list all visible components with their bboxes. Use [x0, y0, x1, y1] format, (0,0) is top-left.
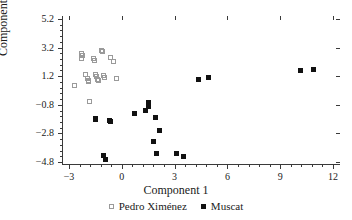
- x-axis-title: Component 1: [0, 183, 352, 198]
- y-tick-minor: [60, 42, 62, 43]
- data-point: [181, 154, 186, 159]
- data-point: [86, 79, 91, 84]
- y-tick-label: 1.2: [0, 71, 54, 81]
- y-tick-minor: [60, 36, 62, 37]
- y-tick-minor: [60, 145, 62, 146]
- y-tick-minor: [60, 82, 62, 83]
- x-tick-minor: [80, 165, 81, 167]
- scatter-plot-figure: 5.23.21.2−0.8−2.8−4.8 −3036912 Component…: [0, 0, 352, 220]
- data-point: [100, 49, 105, 54]
- x-tick-minor: [291, 165, 292, 167]
- y-tick-major-right: [336, 19, 340, 20]
- y-tick-minor: [60, 59, 62, 60]
- data-point: [154, 151, 159, 156]
- data-point: [114, 76, 119, 81]
- x-tick-minor: [101, 165, 102, 167]
- x-tick-minor: [143, 165, 144, 167]
- legend-open-square-icon: [109, 204, 114, 209]
- x-tick-minor: [111, 165, 112, 167]
- y-axis-line: [62, 16, 63, 165]
- y-tick-major-right: [336, 76, 340, 77]
- x-tick-major: [69, 165, 70, 169]
- x-tick-label: 0: [119, 172, 124, 182]
- x-tick-minor: [259, 165, 260, 167]
- x-tick-minor: [185, 165, 186, 167]
- data-point: [92, 58, 97, 63]
- x-tick-minor: [132, 165, 133, 167]
- x-tick-minor: [312, 165, 313, 167]
- x-tick-minor: [206, 165, 207, 167]
- x-axis-line: [62, 164, 340, 165]
- x-tick-major-top: [69, 16, 70, 20]
- data-point: [93, 117, 98, 122]
- y-tick-major: [58, 48, 62, 49]
- data-point: [151, 139, 156, 144]
- x-tick-major-top: [227, 16, 228, 20]
- x-tick-minor: [196, 165, 197, 167]
- data-point: [206, 75, 211, 80]
- y-tick-major-right: [336, 48, 340, 49]
- data-point: [143, 108, 148, 113]
- data-point: [196, 77, 201, 82]
- y-tick-minor: [60, 156, 62, 157]
- data-point: [132, 111, 137, 116]
- y-tick-minor: [60, 111, 62, 112]
- x-tick-minor: [322, 165, 323, 167]
- data-point: [108, 119, 113, 124]
- y-tick-minor: [60, 139, 62, 140]
- y-axis-title: Component 2: [0, 0, 11, 56]
- legend-item: Muscat: [201, 200, 243, 212]
- y-tick-major: [58, 105, 62, 106]
- x-tick-major: [122, 165, 123, 169]
- data-point: [80, 53, 85, 58]
- data-point: [311, 67, 316, 72]
- y-tick-major: [58, 162, 62, 163]
- x-tick-major: [175, 165, 176, 169]
- x-tick-label: 12: [328, 172, 338, 182]
- data-point: [111, 59, 116, 64]
- y-tick-minor: [60, 30, 62, 31]
- data-point: [72, 83, 77, 88]
- y-tick-major-right: [336, 162, 340, 163]
- plot-area: [62, 16, 340, 165]
- data-point: [153, 115, 158, 120]
- data-point: [87, 99, 92, 104]
- data-point: [174, 151, 179, 156]
- x-tick-label: 3: [172, 172, 177, 182]
- legend-item: Pedro Ximénez: [109, 200, 187, 212]
- x-tick-minor: [238, 165, 239, 167]
- y-tick-minor: [60, 70, 62, 71]
- x-tick-label: 9: [278, 172, 283, 182]
- x-tick-minor: [164, 165, 165, 167]
- y-tick-major-right: [336, 133, 340, 134]
- y-tick-minor: [60, 122, 62, 123]
- x-tick-major-top: [175, 16, 176, 20]
- legend-label: Muscat: [211, 200, 243, 212]
- x-tick-major-top: [122, 16, 123, 20]
- data-point: [298, 68, 303, 73]
- x-tick-major: [280, 165, 281, 169]
- y-tick-major-right: [336, 105, 340, 106]
- x-tick-minor: [217, 165, 218, 167]
- data-point: [102, 75, 107, 80]
- y-tick-minor: [60, 65, 62, 66]
- legend-filled-square-icon: [201, 204, 206, 209]
- y-tick-minor: [60, 128, 62, 129]
- y-tick-minor: [60, 151, 62, 152]
- y-tick-major: [58, 133, 62, 134]
- y-tick-minor: [60, 99, 62, 100]
- x-tick-major-top: [280, 16, 281, 20]
- x-tick-minor: [153, 165, 154, 167]
- x-tick-major-top: [333, 16, 334, 20]
- data-point: [146, 100, 151, 105]
- x-tick-minor: [270, 165, 271, 167]
- x-tick-major: [227, 165, 228, 169]
- x-tick-minor: [90, 165, 91, 167]
- y-tick-minor: [60, 25, 62, 26]
- y-tick-minor: [60, 116, 62, 117]
- y-tick-minor: [60, 53, 62, 54]
- x-tick-minor: [301, 165, 302, 167]
- data-point: [157, 128, 162, 133]
- data-point: [146, 104, 151, 109]
- y-tick-minor: [60, 88, 62, 89]
